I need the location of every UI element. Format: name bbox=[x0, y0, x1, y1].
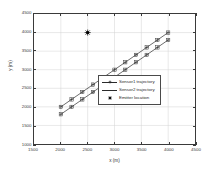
x-tickmark-top bbox=[141, 13, 142, 16]
x-tickmark-top bbox=[169, 13, 170, 16]
x-axis-label: x (m) bbox=[33, 158, 196, 163]
data-point-series-2 bbox=[85, 30, 91, 36]
x-tickmark-top bbox=[114, 13, 115, 16]
x-tick-label: 3500 bbox=[137, 148, 147, 152]
y-tickmark bbox=[33, 126, 36, 127]
x-tickmark bbox=[60, 142, 61, 145]
legend-symbol-emitter-dot bbox=[101, 94, 118, 102]
y-tickmark bbox=[33, 145, 36, 146]
x-tick-label: 4000 bbox=[164, 148, 174, 152]
y-tickmark bbox=[33, 13, 36, 14]
x-tickmark-top bbox=[196, 13, 197, 16]
y-tickmark bbox=[33, 69, 36, 70]
x-tickmark-top bbox=[87, 13, 88, 16]
x-tick-label: 2500 bbox=[82, 148, 92, 152]
x-tick-label: 4500 bbox=[191, 148, 201, 152]
x-tickmark bbox=[169, 142, 170, 145]
x-tickmark bbox=[114, 142, 115, 145]
y-tick-label: 4500 bbox=[6, 11, 32, 15]
legend-symbol-sensor2-line bbox=[101, 86, 118, 94]
y-tickmark-right bbox=[193, 13, 196, 14]
y-tickmark-right bbox=[193, 145, 196, 146]
x-tickmark-top bbox=[60, 13, 61, 16]
y-tick-label: 2000 bbox=[6, 105, 32, 109]
y-tickmark-right bbox=[193, 69, 196, 70]
legend-item-sensor2[interactable]: Sensor2 trajectory bbox=[101, 86, 158, 94]
y-tick-label: 4000 bbox=[6, 30, 32, 34]
x-tick-label: 1500 bbox=[28, 148, 38, 152]
y-tick-label: 2500 bbox=[6, 86, 32, 90]
y-tick-label: 3500 bbox=[6, 49, 32, 53]
y-tickmark bbox=[33, 107, 36, 108]
figure-canvas: y (m) 1500200025003000350040004500100015… bbox=[0, 0, 214, 172]
y-tickmark-right bbox=[193, 126, 196, 127]
x-tickmark bbox=[141, 142, 142, 145]
legend-label-emitter: Emitter location bbox=[118, 96, 149, 100]
legend-symbol-sensor1-line-marker bbox=[101, 78, 118, 86]
x-tickmark-top bbox=[33, 13, 34, 16]
legend-label-sensor1: Sensor1 trajectory bbox=[118, 80, 155, 84]
y-tickmark-right bbox=[193, 50, 196, 51]
y-tickmark bbox=[33, 88, 36, 89]
y-tickmark-right bbox=[193, 88, 196, 89]
y-tickmark-right bbox=[193, 32, 196, 33]
y-tickmark bbox=[33, 32, 36, 33]
legend-item-sensor1[interactable]: Sensor1 trajectory bbox=[101, 78, 158, 86]
y-tickmark bbox=[33, 50, 36, 51]
x-tick-label: 2000 bbox=[55, 148, 65, 152]
legend-item-emitter[interactable]: Emitter location bbox=[101, 94, 158, 102]
legend-box[interactable]: Sensor1 trajectory Sensor2 trajectory Em… bbox=[98, 75, 161, 105]
x-tickmark bbox=[87, 142, 88, 145]
y-tickmark-right bbox=[193, 107, 196, 108]
legend-label-sensor2: Sensor2 trajectory bbox=[118, 88, 155, 92]
y-tick-label: 1000 bbox=[6, 143, 32, 147]
y-tick-label: 1500 bbox=[6, 124, 32, 128]
x-tick-label: 3000 bbox=[110, 148, 120, 152]
y-tick-label: 3000 bbox=[6, 67, 32, 71]
